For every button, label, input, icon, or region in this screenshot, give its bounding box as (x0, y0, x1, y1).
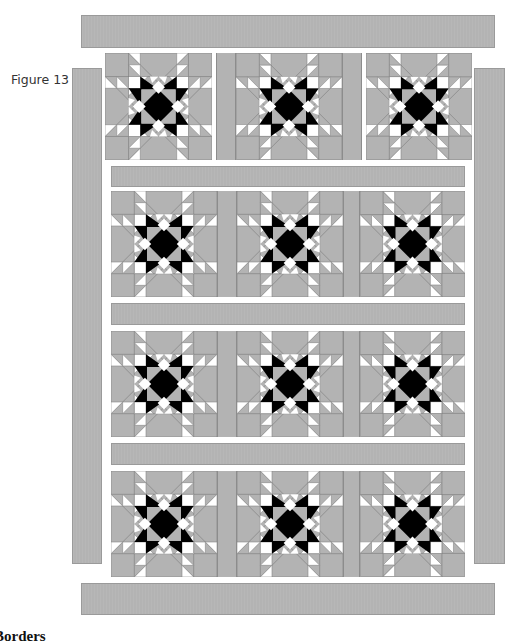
star-icon (111, 331, 217, 437)
star-block (360, 471, 465, 577)
star-block (111, 471, 217, 577)
star-block (237, 331, 343, 437)
star-icon (105, 53, 212, 160)
star-icon (360, 331, 465, 437)
star-block (105, 53, 212, 160)
star-icon (237, 191, 343, 297)
vertical-sashing (343, 471, 360, 577)
figure-label: Figure 13 (11, 72, 69, 87)
vertical-sashing (343, 191, 360, 297)
section-heading: Borders (0, 628, 46, 644)
star-icon (111, 191, 217, 297)
star-block (366, 53, 472, 160)
vertical-sashing (343, 331, 360, 437)
star-icon (360, 191, 465, 297)
star-block (111, 191, 217, 297)
star-block (111, 331, 217, 437)
right-border (474, 68, 505, 564)
star-icon (360, 471, 465, 577)
star-block (236, 53, 342, 160)
top-border (81, 15, 495, 48)
vertical-sashing (217, 471, 237, 577)
horizontal-sashing (111, 443, 465, 465)
star-icon (237, 471, 343, 577)
star-icon (236, 53, 342, 160)
vertical-sashing (217, 191, 237, 297)
star-icon (366, 53, 472, 160)
star-block (237, 191, 343, 297)
star-block (360, 191, 465, 297)
left-border (72, 68, 102, 564)
horizontal-sashing (111, 303, 465, 325)
vertical-sashing (342, 53, 362, 160)
star-icon (111, 471, 217, 577)
horizontal-sashing (111, 166, 465, 187)
star-block (237, 471, 343, 577)
vertical-sashing (217, 331, 237, 437)
vertical-sashing (216, 53, 236, 160)
star-icon (237, 331, 343, 437)
bottom-border (81, 583, 495, 615)
star-block (360, 331, 465, 437)
